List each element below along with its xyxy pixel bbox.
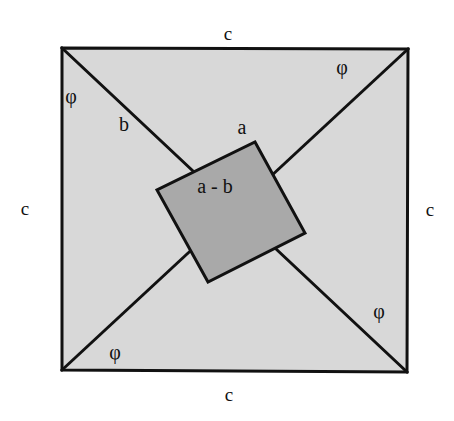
side-label-c-left: c bbox=[21, 199, 29, 218]
segment-label-b: b bbox=[119, 114, 129, 134]
side-label-c-bottom: c bbox=[225, 385, 233, 404]
diagram-root: c c c c φ φ φ φ b a a - b bbox=[0, 0, 454, 421]
angle-label-phi-bottom-right: φ bbox=[373, 301, 385, 321]
segment-label-a: a bbox=[238, 117, 247, 137]
side-label-c-right: c bbox=[426, 200, 434, 219]
angle-label-phi-bottom-left: φ bbox=[109, 342, 121, 362]
angle-label-phi-top-left: φ bbox=[65, 86, 77, 106]
inner-square-label-a-minus-b: a - b bbox=[197, 176, 233, 196]
side-label-c-top: c bbox=[224, 24, 232, 43]
geometry-canvas bbox=[0, 0, 454, 421]
angle-label-phi-top-right: φ bbox=[336, 57, 348, 77]
